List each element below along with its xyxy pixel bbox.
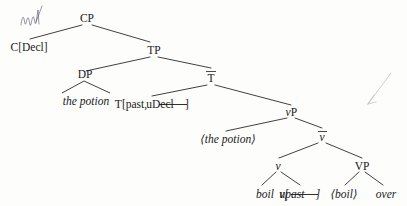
branch-cp-to-cdecl xyxy=(30,25,82,39)
leaf-boil: boil xyxy=(256,188,274,200)
branch-cp-to-tp xyxy=(92,25,150,42)
v-feature-suffix: ] xyxy=(315,188,320,200)
branch-v-to-vfeature xyxy=(281,172,300,185)
leaf-t-head: T[past, uDecl ] xyxy=(115,98,189,111)
node-v-bar: v xyxy=(319,131,325,143)
dp-triangle xyxy=(62,81,110,93)
leaf-over: over xyxy=(376,188,397,200)
trace-the-potion: ⟨the potion⟩ xyxy=(200,133,255,146)
pen-scribble-top-left-icon xyxy=(21,6,42,25)
t-head-suffix: ] xyxy=(185,98,189,110)
syntax-tree-figure: CP C[Decl] TP DP the potion T T[past, uD… xyxy=(0,0,407,206)
node-v-head: v xyxy=(275,160,281,172)
t-head-prefix: T[past, xyxy=(115,98,147,111)
branch-v-to-boil xyxy=(262,172,276,185)
node-cp: CP xyxy=(80,12,94,24)
branch-vp-to-trace-potion xyxy=(226,118,287,131)
branch-vbar-to-vp-big xyxy=(326,143,362,158)
leaf-the-potion: the potion xyxy=(63,95,110,108)
branch-vp-to-vbar xyxy=(295,118,322,128)
branch-tbar-to-vp xyxy=(215,85,291,105)
node-dp: DP xyxy=(78,68,93,80)
node-vp-small: v P xyxy=(285,106,297,118)
t-head-struck-udecl: uDecl xyxy=(146,98,173,110)
node-t-bar: T xyxy=(207,72,214,84)
node-vp-small-p: P xyxy=(291,106,297,118)
branch-tp-to-dp xyxy=(86,57,150,71)
node-vp-big: VP xyxy=(355,160,370,172)
node-c-decl: C[Decl] xyxy=(10,41,47,53)
trace-boil: ⟨boil⟩ xyxy=(331,188,358,200)
branch-vbar-to-v xyxy=(279,143,318,158)
leaf-v-feature: v[ upast ] xyxy=(279,188,320,201)
tree-canvas: CP C[Decl] TP DP the potion T T[past, uD… xyxy=(0,0,407,206)
node-tp: TP xyxy=(147,44,160,56)
branch-tp-to-tbar xyxy=(158,57,211,68)
pen-arrow-right-icon xyxy=(368,73,391,104)
branch-vp-big-to-over xyxy=(365,172,383,185)
branch-tbar-to-thead xyxy=(152,85,207,96)
branch-vp-big-to-trace-boil xyxy=(345,172,359,185)
